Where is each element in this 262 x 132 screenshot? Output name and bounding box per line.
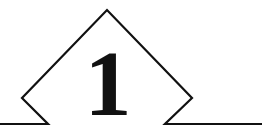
chapter-number: 1 bbox=[80, 38, 136, 128]
